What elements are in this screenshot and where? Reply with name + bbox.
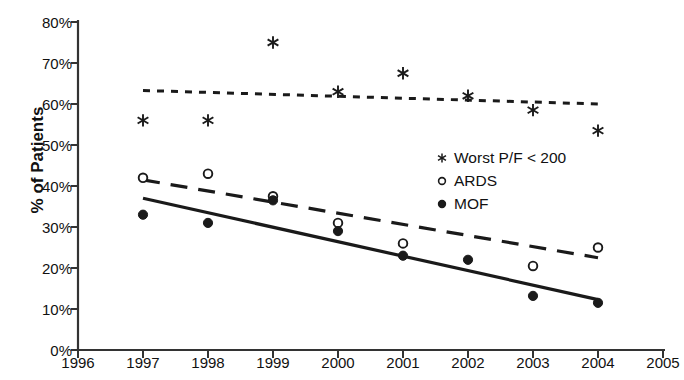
data-point-worst-p-f-200 — [203, 114, 214, 126]
data-point-worst-p-f-200 — [398, 67, 409, 79]
data-point-mof — [463, 255, 472, 264]
data-point-mof — [268, 196, 277, 205]
filled-circle-icon — [432, 196, 452, 212]
data-point-ards — [204, 169, 213, 178]
data-point-mof — [398, 251, 407, 260]
chart-figure: % of Patients 0%10%20%30%40%50%60%70%80%… — [0, 0, 684, 380]
data-point-mof — [203, 218, 212, 227]
legend-item-label: MOF — [452, 195, 488, 213]
data-point-mof — [528, 291, 537, 300]
data-point-ards — [139, 174, 148, 183]
legend-item-label: Worst P/F < 200 — [452, 149, 566, 167]
legend-item[interactable]: Worst P/F < 200 — [432, 146, 566, 169]
data-point-worst-p-f-200 — [593, 124, 604, 136]
data-point-ards — [529, 262, 538, 271]
open-circle-icon — [432, 173, 452, 189]
trendline-worst-p-f-200 — [143, 90, 598, 104]
legend-item-label: ARDS — [452, 172, 497, 190]
legend-item[interactable]: ARDS — [432, 169, 566, 192]
data-point-worst-p-f-200 — [138, 114, 149, 126]
asterisk-icon — [432, 150, 452, 166]
data-point-ards — [399, 239, 408, 248]
data-point-ards — [334, 219, 343, 228]
data-point-worst-p-f-200 — [268, 36, 279, 48]
data-point-mof — [333, 227, 342, 236]
data-point-mof — [593, 298, 602, 307]
data-point-worst-p-f-200 — [528, 104, 539, 116]
data-point-ards — [594, 243, 603, 252]
chart-legend: Worst P/F < 200ARDSMOF — [432, 146, 566, 215]
plot-area — [0, 0, 684, 380]
legend-item[interactable]: MOF — [432, 192, 566, 215]
data-point-mof — [138, 210, 147, 219]
